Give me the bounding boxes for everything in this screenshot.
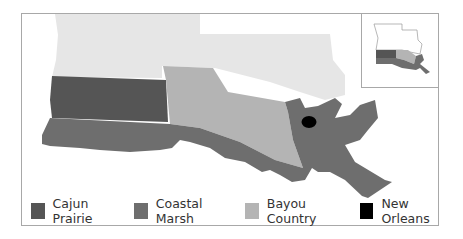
cajun-prairie-swatch <box>31 203 45 219</box>
new-orleans-marker <box>302 116 317 128</box>
legend-label: Cajun Prairie <box>53 196 121 226</box>
legend-item-new-orleans: New Orleans <box>360 196 449 226</box>
locator-cajun-prairie <box>376 50 396 58</box>
region-cajun-prairie <box>50 76 168 122</box>
legend-item-bayou-country: Bayou Country <box>245 196 346 226</box>
bayou-country-swatch <box>245 203 259 219</box>
coastal-marsh-swatch <box>134 203 148 219</box>
legend-label: New Orleans <box>381 196 449 226</box>
legend-label: Coastal Marsh <box>156 196 231 226</box>
locator-inset <box>361 13 439 88</box>
map-legend: Cajun Prairie Coastal Marsh Bayou Countr… <box>31 200 463 222</box>
new-orleans-swatch <box>360 203 374 219</box>
legend-item-coastal-marsh: Coastal Marsh <box>134 196 231 226</box>
legend-item-cajun-prairie: Cajun Prairie <box>31 196 120 226</box>
legend-label: Bayou Country <box>267 196 346 226</box>
locator-map <box>362 14 438 87</box>
locator-state-outline <box>374 24 422 54</box>
